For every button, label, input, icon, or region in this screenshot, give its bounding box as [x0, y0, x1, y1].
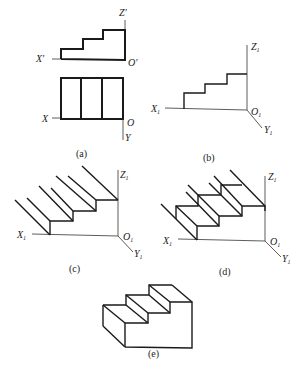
caption-a: (a): [76, 148, 87, 160]
panel-b: Z1 X1 O1 Y1 (b): [150, 41, 273, 164]
x-axis-b: [165, 108, 247, 110]
caption-e: (e): [148, 348, 159, 360]
front-face-e: [125, 302, 192, 348]
label-o1-d: O1: [270, 236, 280, 248]
label-z1-b: Z1: [251, 41, 260, 53]
caption-c: (c): [69, 263, 80, 275]
label-o: O: [127, 117, 134, 128]
label-x1-c: X1: [16, 229, 26, 241]
label-z1-d: Z1: [268, 171, 277, 183]
label-x1-d: X1: [162, 235, 172, 247]
panel-a: Z′ X′ O′ X O Y (a): [35, 7, 138, 160]
label-o1-c: O1: [123, 231, 133, 243]
caption-b: (b): [203, 152, 215, 164]
panel-e: (e): [103, 285, 192, 360]
receding-edge: [149, 295, 170, 313]
label-y: Y: [125, 132, 132, 143]
label-x: X: [41, 113, 49, 124]
front-profile-d: [197, 206, 265, 240]
front-view-profile: [61, 30, 125, 60]
label-y1-b: Y1: [264, 124, 273, 136]
receding-edge: [103, 326, 125, 347]
label-y1-c: Y1: [134, 248, 143, 260]
top-view-rect: [61, 78, 123, 119]
panel-d: Z1 X1 O1 Y1 (d): [161, 170, 291, 278]
profile-c: [50, 200, 118, 235]
label-o1-b: O1: [251, 106, 261, 118]
profile-b: [184, 74, 247, 109]
x-axis-d: [178, 239, 265, 241]
label-z1-c: Z1: [120, 169, 129, 181]
panel-c: Z1 X1 O1 Y1 (c): [15, 166, 143, 275]
receding-edge: [126, 295, 148, 313]
label-o-prime: O′: [128, 57, 138, 68]
label-x1-b: X1: [150, 103, 160, 115]
staircase-construction-diagram: Z′ X′ O′ X O Y (a) Z1 X1 O1 Y1 (b): [0, 0, 305, 368]
receding-edge: [126, 305, 148, 323]
label-y1-d: Y1: [282, 253, 291, 265]
back-profile-d: [176, 185, 242, 219]
x-axis-c: [32, 234, 118, 236]
label-z-prime: Z′: [119, 7, 128, 18]
receding-lines-d: [161, 170, 265, 240]
receding-edge: [103, 305, 125, 323]
label-x-prime: X′: [35, 53, 45, 64]
receding-edge: [149, 285, 170, 302]
caption-d: (d): [219, 266, 231, 278]
receding-edge: [172, 285, 192, 302]
